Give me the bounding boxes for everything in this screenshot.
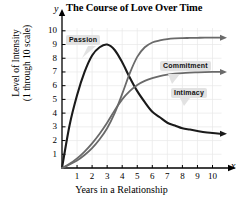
curve-commitment	[62, 38, 220, 168]
tail-intimacy	[180, 98, 190, 106]
series-label-commitment: Commitment	[160, 61, 211, 71]
arrowhead-commitment	[220, 35, 227, 41]
arrowhead-intimacy	[220, 69, 227, 75]
plot-area	[0, 0, 243, 205]
tail-commitment	[168, 74, 180, 84]
x-axis-arrowhead	[228, 165, 236, 171]
arrowhead-passion	[220, 131, 227, 137]
y-axis-arrowhead	[59, 9, 65, 16]
series-label-intimacy: Intimacy	[171, 88, 207, 98]
chart-figure: The Course of Love Over Time y x Level o…	[0, 0, 243, 205]
series-label-passion: Passion	[66, 35, 100, 45]
data-curves	[62, 35, 227, 168]
axes	[59, 9, 236, 171]
